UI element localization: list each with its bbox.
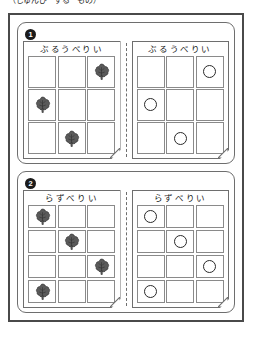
card-title: ぶるうべりい (28, 44, 116, 55)
panel-number-badge: 2 (25, 178, 36, 189)
grid-cell[interactable] (196, 230, 224, 253)
card-title: らずべりい (137, 193, 225, 204)
card-grid (28, 56, 116, 154)
tree-icon (63, 233, 80, 250)
circle-token-icon (174, 132, 187, 145)
grid-cell[interactable] (137, 255, 165, 278)
circle-token-icon (174, 235, 187, 248)
grid-cell[interactable] (137, 205, 165, 228)
circle-token-icon (144, 285, 157, 298)
grid-cell[interactable] (58, 230, 86, 253)
card-grid (137, 56, 225, 154)
grid-cell[interactable] (166, 122, 194, 154)
problem-panel: 1ぶるうべりいぶるうべりい (17, 22, 235, 164)
grid-cell[interactable] (58, 255, 86, 278)
grid-cell[interactable] (166, 230, 194, 253)
worksheet-frame: 1ぶるうべりいぶるうべりい2らずべりいらずべりい (8, 13, 244, 322)
circle-token-icon (203, 260, 216, 273)
grid-cell[interactable] (137, 56, 165, 88)
panel-list: 1ぶるうべりいぶるうべりい2らずべりいらずべりい (13, 18, 239, 317)
grid-cell[interactable] (28, 255, 56, 278)
grid-cell[interactable] (28, 89, 56, 121)
problem-panel: 2らずべりいらずべりい (17, 171, 235, 313)
tree-icon (34, 96, 51, 113)
tree-icon (34, 283, 51, 300)
grid-cell[interactable] (166, 89, 194, 121)
grid-cell[interactable] (58, 122, 86, 154)
grid-cell[interactable] (196, 280, 224, 303)
grid-cell[interactable] (137, 89, 165, 121)
card-slot: らずべりい (127, 190, 235, 308)
bingo-card[interactable]: ぶるうべりい (132, 41, 230, 159)
circle-token-icon (203, 65, 216, 78)
card-pair: らずべりいらずべりい (18, 190, 234, 308)
grid-cell[interactable] (28, 56, 56, 88)
grid-cell[interactable] (58, 89, 86, 121)
grid-cell[interactable] (58, 280, 86, 303)
card-title: ぶるうべりい (137, 44, 225, 55)
card-slot: ぶるうべりい (18, 41, 126, 159)
grid-cell[interactable] (137, 122, 165, 154)
grid-cell[interactable] (166, 205, 194, 228)
grid-cell[interactable] (196, 205, 224, 228)
grid-cell[interactable] (87, 280, 115, 303)
grid-cell[interactable] (196, 255, 224, 278)
grid-cell[interactable] (28, 230, 56, 253)
grid-cell[interactable] (87, 122, 115, 154)
tree-icon (93, 63, 110, 80)
tree-icon (93, 258, 110, 275)
panel-number-badge: 1 (25, 29, 36, 40)
circle-token-icon (144, 98, 157, 111)
bingo-card[interactable]: ぶるうべりい (23, 41, 121, 159)
tree-icon (34, 208, 51, 225)
grid-cell[interactable] (87, 56, 115, 88)
grid-cell[interactable] (87, 205, 115, 228)
card-slot: らずべりい (18, 190, 126, 308)
grid-cell[interactable] (196, 56, 224, 88)
grid-cell[interactable] (166, 280, 194, 303)
circle-token-icon (144, 210, 157, 223)
grid-cell[interactable] (166, 56, 194, 88)
worksheet-caption: （じゅんび する もの） (8, 0, 100, 6)
card-grid (137, 205, 225, 303)
grid-cell[interactable] (28, 205, 56, 228)
grid-cell[interactable] (137, 230, 165, 253)
card-slot: ぶるうべりい (127, 41, 235, 159)
grid-cell[interactable] (196, 122, 224, 154)
grid-cell[interactable] (87, 89, 115, 121)
grid-cell[interactable] (58, 56, 86, 88)
grid-cell[interactable] (58, 205, 86, 228)
card-title: らずべりい (28, 193, 116, 204)
card-pair: ぶるうべりいぶるうべりい (18, 41, 234, 159)
tree-icon (63, 130, 80, 147)
grid-cell[interactable] (196, 89, 224, 121)
bingo-card[interactable]: らずべりい (132, 190, 230, 308)
grid-cell[interactable] (28, 122, 56, 154)
bingo-card[interactable]: らずべりい (23, 190, 121, 308)
grid-cell[interactable] (87, 230, 115, 253)
grid-cell[interactable] (137, 280, 165, 303)
grid-cell[interactable] (166, 255, 194, 278)
grid-cell[interactable] (87, 255, 115, 278)
grid-cell[interactable] (28, 280, 56, 303)
card-grid (28, 205, 116, 303)
